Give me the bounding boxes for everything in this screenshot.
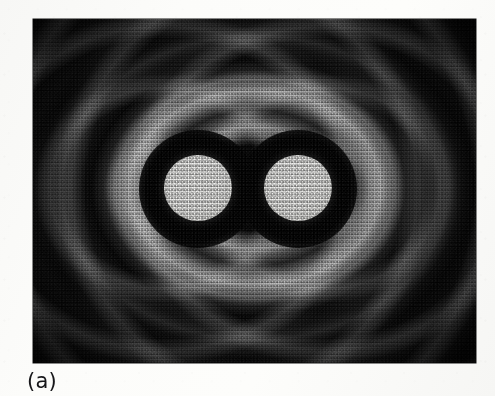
bright-disc-right xyxy=(264,155,332,221)
disc-grain-texture xyxy=(164,155,232,221)
bright-disc-left xyxy=(164,155,232,221)
figure-caption: (a) xyxy=(27,369,57,393)
figure-page: (a) xyxy=(0,0,495,396)
disc-grain-texture xyxy=(264,155,332,221)
interference-pattern-photo xyxy=(33,19,476,363)
